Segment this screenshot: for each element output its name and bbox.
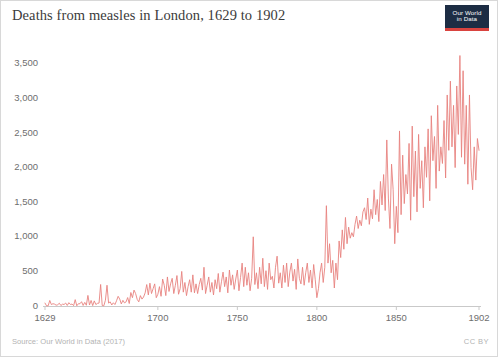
y-axis-tick-label: 1,500 bbox=[14, 196, 38, 207]
measles-deaths-series bbox=[45, 56, 479, 306]
chart-card: Deaths from measles in London, 1629 to 1… bbox=[0, 0, 498, 357]
chart-footer: Source: Our World in Data (2017) CC BY bbox=[1, 332, 498, 356]
owid-logo-line2: in Data bbox=[457, 16, 477, 22]
license-note: CC BY bbox=[464, 337, 489, 346]
y-axis-tick-label: 3,500 bbox=[14, 57, 38, 68]
x-axis-tick-label: 1750 bbox=[227, 312, 248, 323]
plot-area: 05001,0001,5002,0002,5003,0003,500 16291… bbox=[1, 31, 498, 331]
owid-logo: Our World in Data bbox=[445, 5, 489, 31]
x-axis-tick-label: 1800 bbox=[306, 312, 327, 323]
x-axis-tick-label: 1902 bbox=[468, 312, 489, 323]
y-axis: 05001,0001,5002,0002,5003,0003,500 bbox=[14, 57, 38, 310]
y-axis-tick-label: 1,000 bbox=[14, 230, 38, 241]
source-note: Source: Our World in Data (2017) bbox=[12, 337, 125, 346]
page-title: Deaths from measles in London, 1629 to 1… bbox=[12, 7, 285, 24]
x-axis-tick-label: 1850 bbox=[386, 312, 407, 323]
x-axis-tick-label: 1629 bbox=[34, 312, 55, 323]
y-axis-tick-label: 2,500 bbox=[14, 127, 38, 138]
line-chart: 05001,0001,5002,0002,5003,0003,500 16291… bbox=[1, 31, 498, 331]
x-axis-tick-label: 1700 bbox=[147, 312, 168, 323]
y-axis-tick-label: 3,000 bbox=[14, 92, 38, 103]
y-axis-tick-label: 0 bbox=[33, 300, 38, 311]
y-axis-tick-label: 2,000 bbox=[14, 161, 38, 172]
x-axis: 162917001750180018501902 bbox=[34, 306, 489, 323]
y-axis-tick-label: 500 bbox=[22, 265, 38, 276]
